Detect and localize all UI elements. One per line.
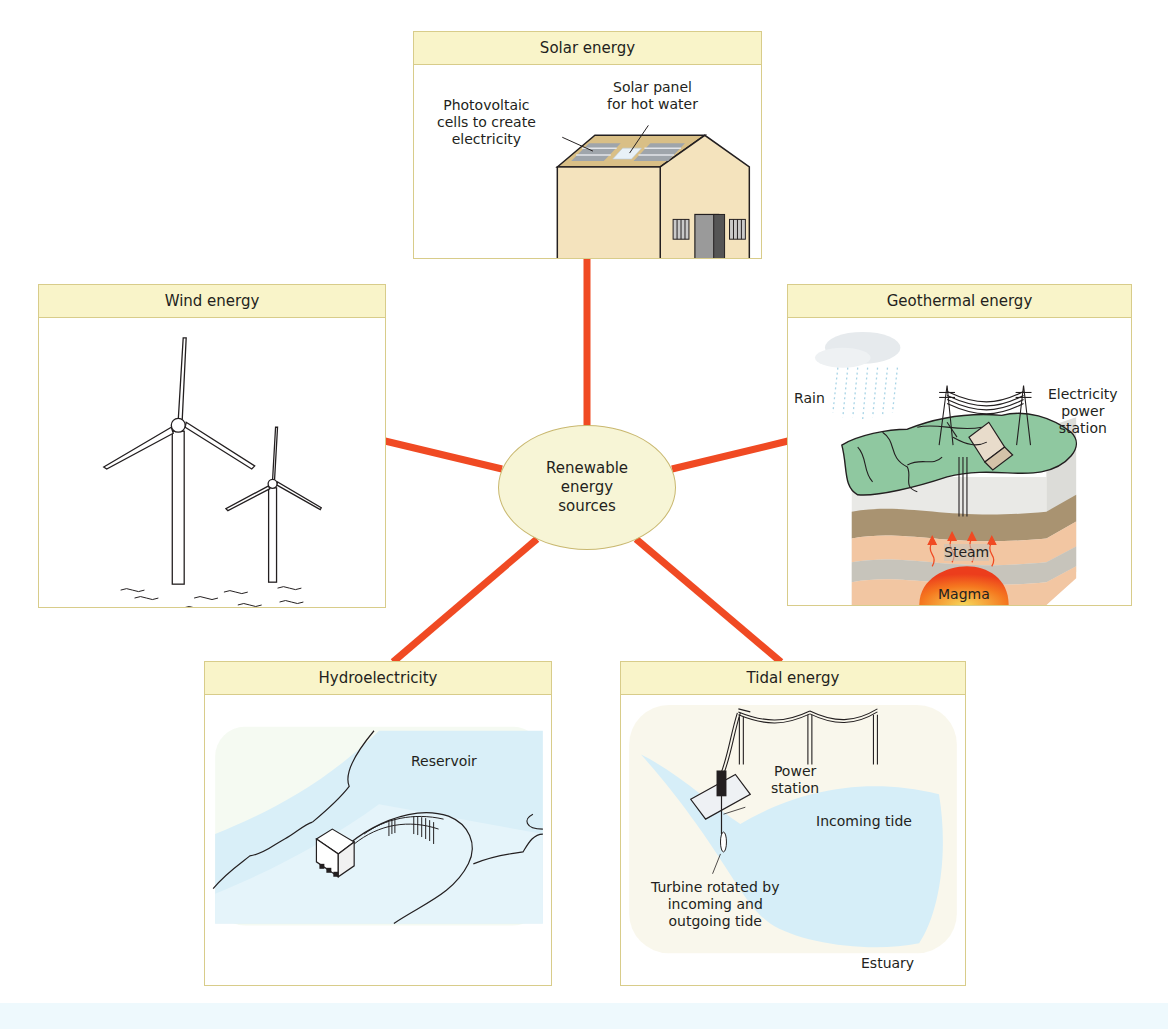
label-estuary: Estuary (861, 955, 914, 972)
label-power-station: Power station (771, 763, 819, 797)
hub-label-line1: Renewable (546, 459, 628, 478)
label-line: incoming and (651, 896, 779, 913)
panel-wind-energy: Wind energy (38, 284, 386, 608)
label-line: electricity (437, 131, 536, 148)
label-electricity-power-station: Electricity power station (1048, 386, 1118, 437)
label-line: station (1048, 420, 1118, 437)
connector-hydro (393, 539, 537, 662)
panel-title-solar: Solar energy (414, 32, 761, 65)
label-line: for hot water (607, 96, 698, 113)
label-line: Power (771, 763, 819, 780)
wind-turbines-illustration (39, 318, 385, 607)
house-with-solar-panels-illustration (414, 65, 761, 258)
label-incoming-tide: Incoming tide (816, 813, 912, 830)
label-line: Electricity (1048, 386, 1118, 403)
label-rain: Rain (794, 390, 825, 407)
label-steam: Steam (944, 544, 989, 561)
hub-label-line2: energy (546, 478, 628, 497)
panel-tidal-energy: Tidal energy Power stat (620, 661, 966, 986)
connector-geothermal (672, 441, 788, 469)
panel-title-wind: Wind energy (39, 285, 385, 318)
label-line: cells to create (437, 114, 536, 131)
panel-title-geothermal: Geothermal energy (788, 285, 1131, 318)
label-photovoltaic-cells: Photovoltaic cells to create electricity (437, 97, 536, 148)
connector-tidal (636, 539, 781, 662)
dam-reservoir-illustration (205, 695, 551, 985)
hub-renewable-energy-sources: Renewable energy sources (498, 425, 676, 550)
bottom-band (0, 1003, 1168, 1029)
panel-title-tidal: Tidal energy (621, 662, 965, 695)
label-turbine: Turbine rotated by incoming and outgoing… (651, 879, 779, 930)
label-line: station (771, 780, 819, 797)
panel-solar-energy: Solar energy (413, 31, 762, 259)
label-line: Photovoltaic (437, 97, 536, 114)
panel-geothermal-energy: Geothermal energy (787, 284, 1132, 606)
connector-wind (385, 441, 502, 469)
label-line: power (1048, 403, 1118, 420)
label-line: Solar panel (607, 79, 698, 96)
panel-title-hydro: Hydroelectricity (205, 662, 551, 695)
geothermal-cross-section-illustration (788, 318, 1131, 605)
label-magma: Magma (938, 586, 990, 603)
tidal-barrage-illustration (621, 695, 965, 985)
label-line: Turbine rotated by (651, 879, 779, 896)
label-solar-panel-hot-water: Solar panel for hot water (607, 79, 698, 113)
label-line: outgoing tide (651, 913, 779, 930)
hub-label-line3: sources (546, 497, 628, 516)
panel-hydroelectricity: Hydroelectricity (204, 661, 552, 986)
label-reservoir: Reservoir (411, 753, 477, 770)
